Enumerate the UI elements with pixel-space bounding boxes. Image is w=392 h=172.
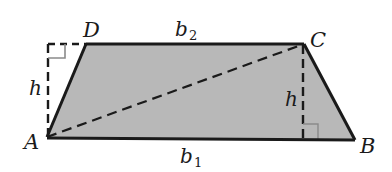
vertex-label-b: B	[359, 134, 375, 158]
trapezoid-fill	[47, 44, 355, 140]
trapezoid-diagram: A B C D b 2 b 1 h h	[0, 0, 392, 172]
top-base-label: b	[175, 17, 188, 41]
height-label-right: h	[285, 87, 298, 111]
top-base-subscript: 2	[189, 28, 197, 43]
height-label-left: h	[29, 76, 42, 100]
base-b1-edge	[47, 138, 355, 140]
vertex-label-c: C	[310, 28, 326, 52]
vertex-label-a: A	[22, 130, 39, 154]
bottom-base-subscript: 1	[194, 155, 202, 170]
right-angle-mark-left	[48, 44, 65, 58]
bottom-base-label: b	[180, 144, 193, 168]
vertex-label-d: D	[82, 18, 100, 42]
